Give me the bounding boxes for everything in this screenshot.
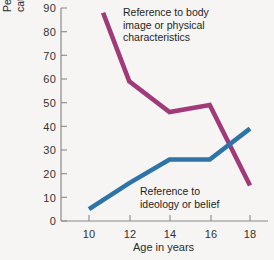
chart-figure: Percentage of respondents who used a cat… [0,0,274,260]
y-tick-marks [61,8,67,221]
plot-area [0,0,274,260]
x-tick-marks [89,215,250,221]
